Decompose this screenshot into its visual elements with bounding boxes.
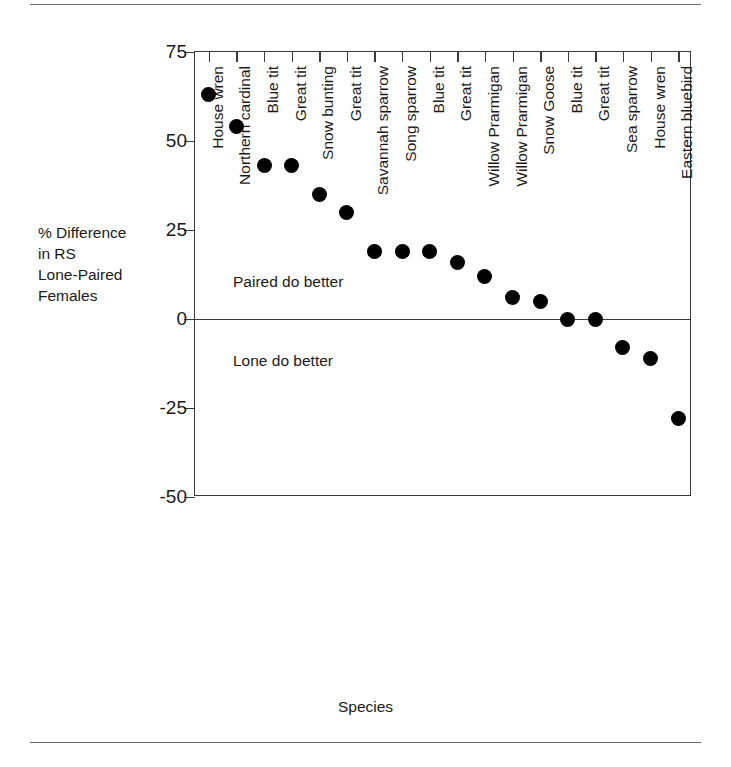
paired-do-better-label: Paired do better <box>233 273 343 291</box>
x-tick-mark <box>457 52 458 62</box>
x-tick-mark <box>623 52 624 62</box>
y-tick-label: 75 <box>166 41 187 63</box>
figure-bottom-rule <box>30 742 701 743</box>
x-tick-label: House wren <box>209 66 227 149</box>
figure-top-rule <box>30 4 701 5</box>
x-tick-label: Blue tit <box>430 66 448 113</box>
y-axis-title: % Difference in RS Lone-Paired Females <box>38 222 170 306</box>
x-tick-label: Song sparrow <box>402 66 420 162</box>
x-tick-mark <box>595 52 596 62</box>
y-tick-label: -25 <box>160 397 187 419</box>
x-axis-title: Species <box>0 698 731 716</box>
data-point <box>450 255 465 270</box>
data-point <box>395 244 410 259</box>
data-point <box>367 244 382 259</box>
x-tick-mark <box>568 52 569 62</box>
y-tick-label: 25 <box>166 219 187 241</box>
data-point <box>284 158 299 173</box>
y-tick-label: 50 <box>166 130 187 152</box>
x-tick-mark <box>430 52 431 62</box>
data-point <box>257 158 272 173</box>
data-point <box>533 294 548 309</box>
y-tick-label: 0 <box>176 308 187 330</box>
data-point <box>312 187 327 202</box>
x-tick-label: Savannah sparrow <box>374 66 392 195</box>
x-tick-label: Great tit <box>457 66 475 121</box>
x-tick-label: Snow Goose <box>540 66 558 155</box>
x-tick-mark <box>540 52 541 62</box>
data-point <box>422 244 437 259</box>
x-tick-label: Great tit <box>595 66 613 121</box>
x-tick-label: Great tit <box>347 66 365 121</box>
data-point <box>560 312 575 327</box>
x-tick-label: Great tit <box>292 66 310 121</box>
x-tick-label: Sea sparrow <box>623 66 641 153</box>
x-tick-mark <box>651 52 652 62</box>
x-tick-mark <box>374 52 375 62</box>
x-tick-mark <box>264 52 265 62</box>
x-tick-mark <box>485 52 486 62</box>
lone-do-better-label: Lone do better <box>233 352 333 370</box>
x-tick-mark <box>319 52 320 62</box>
x-tick-mark <box>236 52 237 62</box>
zero-line <box>195 319 690 320</box>
plot-area: 7550250-25-50Paired do betterLone do bet… <box>195 52 690 495</box>
data-point <box>643 351 658 366</box>
x-tick-label: Blue tit <box>568 66 586 113</box>
data-point <box>588 312 603 327</box>
x-tick-label: House wren <box>651 66 669 149</box>
data-point <box>671 411 686 426</box>
plot-frame: 7550250-25-50Paired do betterLone do bet… <box>194 51 691 496</box>
x-tick-mark <box>402 52 403 62</box>
data-point <box>505 290 520 305</box>
x-tick-mark <box>678 52 679 62</box>
data-point <box>477 269 492 284</box>
data-point <box>339 205 354 220</box>
x-tick-label: Blue tit <box>264 66 282 113</box>
y-tick-label: -50 <box>160 486 187 508</box>
x-tick-label: Eastern bluebird <box>678 66 696 179</box>
x-tick-mark <box>209 52 210 62</box>
x-tick-mark <box>292 52 293 62</box>
x-tick-mark <box>347 52 348 62</box>
x-tick-label: Snow bunting <box>319 66 337 160</box>
x-tick-mark <box>513 52 514 62</box>
x-tick-label: Willow Prarmigan <box>485 66 503 187</box>
data-point <box>615 340 630 355</box>
x-tick-label: Willow Prarmigan <box>513 66 531 187</box>
